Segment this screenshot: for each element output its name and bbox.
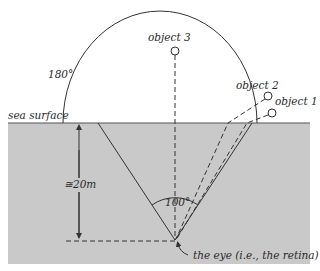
object1-label: object 1 bbox=[275, 95, 318, 107]
water-region bbox=[8, 123, 310, 264]
object3-label: object 3 bbox=[148, 31, 191, 43]
object1-marker bbox=[268, 109, 276, 117]
object2-marker bbox=[264, 92, 272, 100]
snells-window-diagram: sea surface 180° object 3 object 2 objec… bbox=[0, 0, 320, 271]
cone-angle-label: 100° bbox=[165, 196, 190, 208]
sea-surface-label: sea surface bbox=[8, 109, 69, 121]
sky-angle-label: 180° bbox=[48, 68, 73, 80]
depth-label: ≅20m bbox=[64, 178, 96, 190]
object2-label: object 2 bbox=[236, 79, 279, 91]
sky-hemisphere-arc bbox=[63, 11, 257, 123]
eye-label: the eye (i.e., the retina) bbox=[193, 249, 319, 261]
object3-marker bbox=[171, 47, 179, 55]
